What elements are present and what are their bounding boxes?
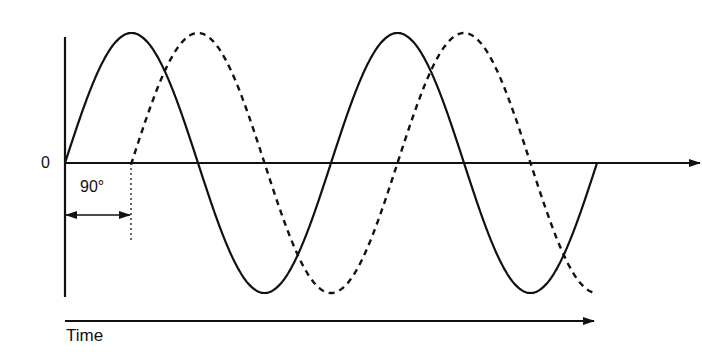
phase-diagram (0, 0, 702, 363)
zero-label: 0 (41, 154, 50, 172)
phase-shift-label: 90° (80, 178, 104, 196)
time-axis-label: Time (66, 326, 103, 346)
